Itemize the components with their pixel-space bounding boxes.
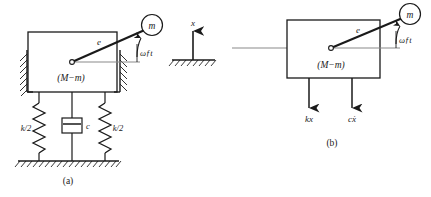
force-damper-label: cẋ [348, 114, 356, 124]
rotating-mass-label-a: m [149, 21, 156, 31]
eccentric-arm-b [331, 17, 405, 48]
pivot-point-a [70, 60, 75, 65]
spring-left-label: k/2 [21, 123, 32, 133]
caption-b: (b) [326, 138, 337, 149]
right-guide-wall [114, 50, 127, 92]
force-spring-label: kx [305, 114, 313, 124]
pivot-point-b [329, 46, 334, 51]
hatch-ground-axis [169, 60, 216, 66]
eccentricity-label-b: e [356, 25, 360, 35]
angle-label-a: ωƒt [140, 48, 153, 58]
eccentric-arm-a [72, 29, 147, 62]
spring-right [99, 92, 111, 161]
displacement-axis: x [169, 18, 216, 66]
damper-label: c [86, 121, 90, 131]
angle-label-b: ωƒt [399, 35, 412, 45]
eccentricity-label-a: e [97, 37, 101, 47]
ground-a [15, 161, 121, 167]
caption-a: (a) [63, 176, 74, 187]
mass-block-label-b: (M−m) [317, 60, 345, 71]
hatch-left-wall [20, 54, 27, 96]
spring-right-label: k/2 [113, 123, 124, 133]
damper-c [62, 92, 82, 161]
rotating-mass-label-b: m [407, 10, 414, 20]
axis-label-x: x [190, 18, 195, 28]
mass-block-label-a: (M−m) [57, 73, 85, 84]
diagram-a: m ωƒt e (M−m) k/2 k/2 [15, 15, 163, 188]
mechanical-vibration-figure: m ωƒt e (M−m) k/2 k/2 [0, 0, 431, 197]
diagram-b: m ωƒt e (M−m) kx cẋ (b) [287, 4, 421, 150]
spring-left [33, 92, 45, 161]
hatch-ground [15, 161, 121, 167]
figure-canvas: m ωƒt e (M−m) k/2 k/2 [0, 0, 431, 197]
left-guide-wall [20, 50, 33, 96]
hatch-right-wall [120, 54, 127, 91]
